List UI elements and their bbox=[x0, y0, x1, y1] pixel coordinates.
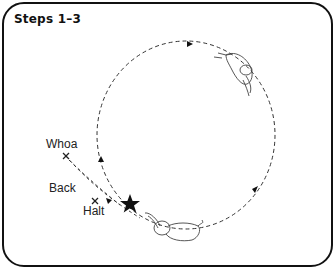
direction-arrow-icon bbox=[106, 198, 112, 204]
circle-path bbox=[97, 41, 275, 229]
direction-arrow-icon bbox=[252, 186, 258, 193]
horse-rider-bottom-icon bbox=[145, 213, 203, 241]
label-back: Back bbox=[49, 181, 76, 195]
back-path-inner bbox=[69, 160, 120, 205]
star-icon bbox=[120, 194, 140, 213]
riding-pattern-diagram bbox=[0, 0, 333, 267]
direction-arrow-icon bbox=[98, 156, 104, 162]
label-whoa: Whoa bbox=[46, 137, 77, 151]
horse-rider-top-icon bbox=[214, 53, 252, 96]
direction-arrow-icon bbox=[187, 41, 193, 47]
label-halt: Halt bbox=[83, 204, 104, 218]
x-mark-whoa-icon bbox=[63, 153, 69, 159]
